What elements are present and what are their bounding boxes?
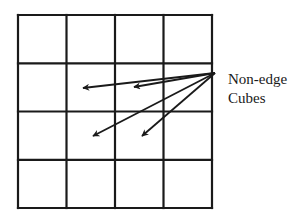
cube-grid [17, 14, 213, 209]
label-line-1: Non-edge [228, 70, 287, 89]
arrow-to-row2-col2 [83, 73, 215, 88]
pointer-arrows [83, 73, 215, 136]
non-edge-cubes-diagram [0, 0, 307, 222]
label-line-2: Cubes [228, 89, 287, 108]
non-edge-cubes-label: Non-edge Cubes [228, 70, 287, 108]
